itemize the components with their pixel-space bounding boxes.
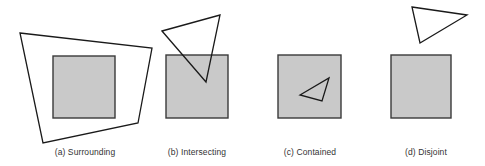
panel-contained [278,55,341,118]
square-contained [278,55,341,118]
caption-surrounding: (a) Surrounding [55,147,116,157]
panel-intersecting [162,15,228,118]
square-surrounding [53,56,115,118]
panel-surrounding [20,33,152,143]
panel-disjoint [391,7,467,118]
triangle-disjoint [412,7,467,43]
square-intersecting [166,55,228,118]
caption-disjoint: (d) Disjoint [405,147,447,157]
caption-intersecting: (b) Intersecting [168,147,226,157]
caption-contained: (c) Contained [284,147,336,157]
polygon-square-relationship-diagram [0,0,485,166]
square-disjoint [391,55,451,118]
